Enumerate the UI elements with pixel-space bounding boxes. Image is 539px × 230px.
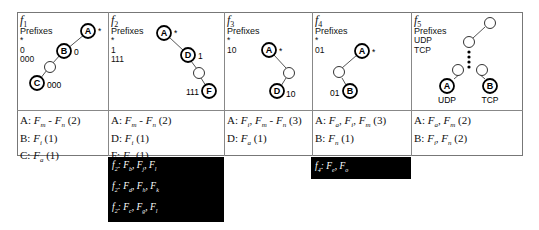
node-a: A (85, 26, 92, 36)
svg-text:0: 0 (74, 47, 79, 57)
svg-text:01: 01 (330, 88, 340, 98)
overflow-box-f2: f2: Fb, Fj, Fl f2: Fd, Fh, Fk f2: Fc, Fg… (108, 157, 224, 222)
overflow-box-f4: f4: Fe, Fo (311, 157, 411, 179)
overflow-row: f2: Fb, Fj, Fl (112, 160, 156, 172)
trie-diagram: A * D 10 (224, 12, 312, 110)
svg-text:TCP: TCP (482, 95, 499, 105)
node-b: B (347, 86, 354, 96)
overflow-row: f4: Fe, Fo (315, 161, 348, 173)
overflow-row: f2: Fc, Fg, Fl (112, 202, 157, 214)
node-d: D (274, 86, 281, 96)
rule-row: D: Fi (1) (111, 132, 172, 150)
node-a: A (266, 45, 273, 55)
node-d: D (185, 50, 192, 60)
rule-row: C: Fa (1) (20, 149, 81, 167)
trie-cell-f3: f3 Prefixes * 10 A * D 10 (224, 12, 312, 110)
trie-cell-f5: f5 Prefixes UDP TCP A UDP B TCP (411, 12, 523, 110)
rules-cell-f4: A: Fa, Fi, Fm (3) B: Fn (1) (312, 110, 411, 156)
rule-row: D: Fa (1) (227, 132, 302, 150)
svg-text:*: * (98, 26, 102, 36)
rule-list: A: Fa, Fi, Fm (3) B: Fn (1) (315, 114, 386, 149)
rule-row: A: Fm - Fn (2) (20, 114, 81, 132)
svg-text:UDP: UDP (438, 95, 456, 105)
trie-diagram: A UDP B TCP (411, 12, 523, 110)
rule-row: B: Fi, Fn (2) (414, 132, 471, 150)
rule-list: A: Fa, Fm (2) B: Fi, Fn (2) (414, 114, 471, 149)
node-b: B (61, 46, 68, 56)
svg-text:000: 000 (47, 80, 61, 90)
rule-list: A: Fi, Fm - Fn (3) D: Fa (1) (227, 114, 302, 149)
rules-cell-f1: A: Fm - Fn (2) B: Fi (1) C: Fa (1) (17, 110, 108, 156)
rules-cell-f2: A: Fm - Fn (2) D: Fi (1) F: Fa (1) (108, 110, 224, 156)
node-b: B (487, 81, 494, 91)
svg-text:111: 111 (186, 87, 199, 97)
overflow-row: f2: Fd, Fh, Fk (112, 181, 159, 193)
node-f: F (206, 86, 212, 96)
trie-diagram: A * D 1 F 111 (108, 12, 224, 110)
rule-row: A: Fm - Fn (2) (111, 114, 172, 132)
node-c: C (34, 78, 41, 88)
rule-list: A: Fm - Fn (2) B: Fi (1) C: Fa (1) (20, 114, 81, 167)
rules-cell-f5: A: Fa, Fm (2) B: Fi, Fn (2) (411, 110, 523, 156)
svg-text:10: 10 (286, 89, 296, 99)
node-a: A (359, 46, 366, 56)
svg-text:1: 1 (198, 51, 203, 61)
trie-diagram: A * B 01 (312, 12, 411, 110)
trie-diagram: A * B 0 C 000 (17, 12, 108, 110)
trie-cell-f2: f2 Prefixes * 1 111 A * D 1 F 111 (108, 12, 224, 110)
rule-row: A: Fa, Fi, Fm (3) (315, 114, 386, 132)
svg-text:*: * (279, 46, 283, 56)
svg-text:*: * (372, 47, 376, 57)
rule-row: B: Fi (1) (20, 132, 81, 150)
rule-row: B: Fn (1) (315, 132, 386, 150)
rule-row: A: Fi, Fm - Fn (3) (227, 114, 302, 132)
rule-row: A: Fa, Fm (2) (414, 114, 471, 132)
node-a: A (444, 81, 451, 91)
trie-cell-f1: f1 Prefixes * 0 000 A * B 0 C 000 (17, 12, 108, 110)
svg-text:*: * (174, 28, 178, 38)
node-a: A (161, 28, 168, 38)
rules-cell-f3: A: Fi, Fm - Fn (3) D: Fa (1) (224, 110, 312, 156)
trie-cell-f4: f4 Prefixes * 01 A * B 01 (312, 12, 411, 110)
